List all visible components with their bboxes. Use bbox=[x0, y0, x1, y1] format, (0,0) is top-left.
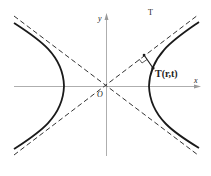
point-label: T(r,t) bbox=[155, 68, 178, 80]
origin-label: O bbox=[97, 90, 103, 99]
x-axis-arrow-icon bbox=[194, 85, 201, 89]
hyperbola-diagram: T(r,t) x y O T bbox=[0, 0, 211, 176]
y-axis-label: y bbox=[97, 14, 102, 23]
hyperbola-right-branch bbox=[149, 22, 199, 148]
hyperbola-left-branch bbox=[14, 23, 64, 149]
y-axis-arrow-icon bbox=[105, 13, 109, 20]
x-axis-label: x bbox=[193, 76, 198, 85]
perpendicular-segment bbox=[144, 55, 153, 68]
faint-mark: T bbox=[148, 8, 153, 17]
right-angle-mark bbox=[139, 59, 147, 63]
foot-point bbox=[143, 54, 146, 57]
